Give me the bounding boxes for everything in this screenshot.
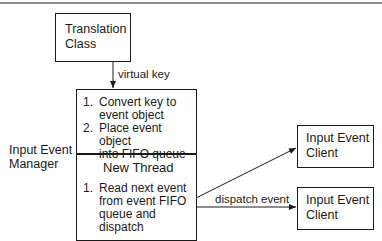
client-2-line1: Input Event	[306, 193, 369, 207]
client-2-line2: Client	[306, 208, 338, 222]
input-event-client-box-2: Input Event Client	[297, 187, 374, 230]
translation-class-line1: Translation	[65, 22, 126, 36]
virtual-key-label: virtual key	[118, 68, 170, 81]
translation-class-box: Translation Class	[55, 13, 131, 62]
thread-steps: 1. Read next event from event FIFO queue…	[79, 182, 196, 234]
input-event-manager-box: 1. Convert key to event object 2. Place …	[76, 89, 197, 241]
dispatch-event-label: dispatch event	[215, 193, 289, 206]
manager-step-2: 2. Place event object into FIFO queue	[79, 122, 196, 161]
dispatch-arrow-client-1	[196, 148, 296, 198]
thread-step-1: 1. Read next event from event FIFO queue…	[79, 182, 196, 234]
translation-class-line2: Class	[65, 37, 96, 51]
manager-label-line2: Manager	[9, 157, 58, 171]
manager-label-line1: Input Event	[9, 143, 72, 157]
manager-steps: 1. Convert key to event object 2. Place …	[79, 96, 196, 161]
client-1-line2: Client	[306, 146, 338, 160]
thread-divider	[77, 153, 196, 155]
client-1-line1: Input Event	[306, 131, 369, 145]
manager-step-1: 1. Convert key to event object	[79, 96, 196, 122]
input-event-client-box-1: Input Event Client	[297, 125, 374, 168]
new-thread-title: New Thread	[103, 161, 174, 175]
